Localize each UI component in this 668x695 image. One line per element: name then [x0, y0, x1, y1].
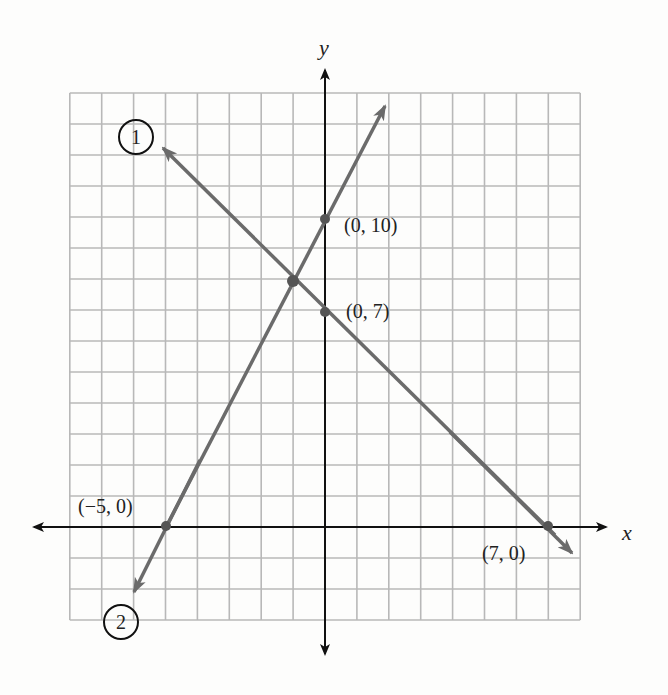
line-1-lower [450, 432, 572, 553]
line-1-tag: 1 [131, 126, 141, 148]
point-0-10 [320, 214, 330, 224]
label-7-0: (7, 0) [482, 542, 525, 565]
point-7-0 [543, 521, 553, 531]
point-0-7 [320, 307, 330, 317]
y-axis-label: y [317, 35, 329, 60]
label-0-10: (0, 10) [344, 214, 397, 237]
point-intersection [287, 275, 299, 287]
label-m5-0: (−5, 0) [78, 495, 133, 518]
point-m5-0 [161, 521, 171, 531]
label-0-7: (0, 7) [346, 300, 389, 323]
line-2-tag: 2 [116, 611, 126, 633]
x-axis-label: x [621, 520, 632, 545]
coordinate-plane: x y (0, 10) (0, 7) (−5, 0) (7, 0) 1 2 [0, 0, 668, 695]
